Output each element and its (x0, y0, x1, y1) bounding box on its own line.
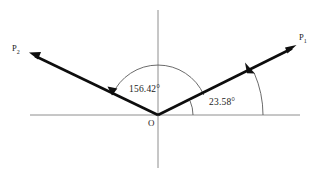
origin-label: O (148, 118, 155, 128)
angle-arc-23-outer (254, 73, 263, 115)
angle-diagram: 156.42° 23.58° P1 P2 O (0, 0, 323, 178)
point-label-p1-subscript: 1 (304, 38, 307, 44)
angle-arc-23-inner (190, 101, 193, 115)
angle-label-23: 23.58° (209, 97, 235, 107)
point-label-p2-subscript: 2 (17, 49, 20, 55)
point-label-p1: P1 (299, 32, 307, 44)
diagram-canvas: 156.42° 23.58° P1 P2 O (0, 0, 323, 178)
point-label-p2: P2 (12, 43, 20, 55)
angle-label-156: 156.42° (129, 84, 160, 94)
